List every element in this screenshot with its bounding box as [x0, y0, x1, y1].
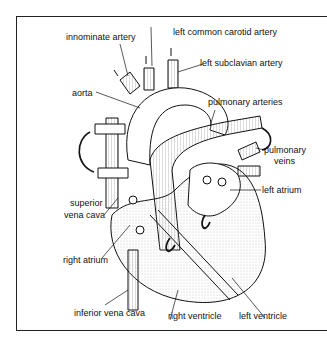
innominate-artery	[120, 72, 140, 94]
label-left-ventricle: left ventricle	[239, 311, 287, 321]
left-subclavian	[168, 60, 178, 88]
label-left-common-carotid-artery: left common carotid artery	[173, 27, 277, 37]
inferior-vena-cava	[128, 250, 138, 310]
label-pulmonary-veins-2: veins	[274, 156, 295, 166]
label-left-subclavian-artery: left subclavian artery	[200, 58, 283, 68]
label-right-ventricle: right ventricle	[168, 311, 222, 321]
label-inferior-vena-cava: inferior vena cava	[74, 308, 145, 318]
label-pulmonary-arteries: pulmonary arteries	[208, 97, 283, 107]
left-common-carotid	[144, 68, 154, 90]
label-pulmonary-veins: pulmonary	[264, 145, 306, 155]
label-right-atrium: right atrium	[63, 255, 108, 265]
label-left-atrium: left atrium	[262, 185, 302, 195]
label-aorta: aorta	[72, 88, 93, 98]
label-superior-vena-cava-2: vena cava	[64, 210, 105, 220]
label-superior-vena-cava: superior	[70, 198, 103, 208]
label-innominate-artery: innominate artery	[66, 32, 136, 42]
